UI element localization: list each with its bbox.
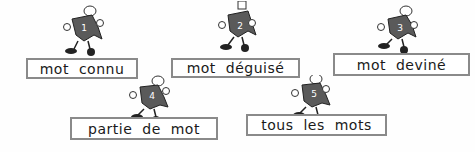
strategy-cards-panel: 1 mot connu 2 mot déguisé 3: [0, 0, 475, 152]
svg-text:1: 1: [81, 23, 87, 33]
mascot-2-icon: 2: [216, 1, 260, 53]
svg-text:3: 3: [397, 23, 403, 33]
svg-text:2: 2: [237, 21, 243, 31]
label-partie-de-mot: partie de mot: [70, 117, 218, 140]
label-mot-deguise: mot déguisé: [171, 58, 300, 78]
svg-text:4: 4: [149, 91, 155, 101]
mascot-1-icon: 1: [62, 5, 106, 57]
mascot-3-icon: 3: [376, 3, 420, 55]
label-mot-devine: mot deviné: [333, 53, 470, 76]
label-tous-les-mots: tous les mots: [246, 114, 387, 136]
label-mot-connu: mot connu: [26, 58, 138, 79]
svg-text:5: 5: [311, 89, 317, 99]
